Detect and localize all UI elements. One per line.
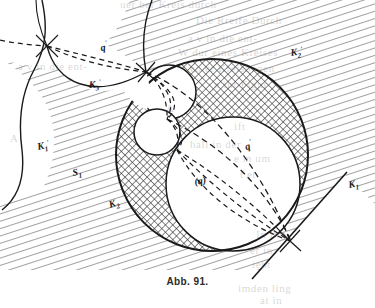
figure-svg: K1 K2 K1' K2' K3' S1 q' q' (q) bbox=[0, 0, 375, 308]
chain-circle-large bbox=[166, 117, 300, 251]
figure-container: K1 K2 K1' K2' K3' S1 q' q' (q) uer ber K… bbox=[0, 0, 375, 308]
figure-caption: Abb. 91. bbox=[0, 276, 375, 287]
chain-circle-middle bbox=[134, 109, 180, 155]
